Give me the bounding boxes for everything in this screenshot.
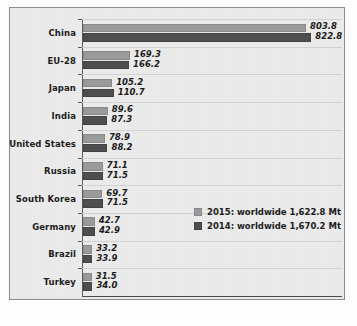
gridline <box>82 268 342 269</box>
axis-tick <box>78 130 82 131</box>
bar-value-label: 88.2 <box>111 142 132 152</box>
axis-tick <box>78 19 82 20</box>
category-row: India89.687.3 <box>82 102 344 130</box>
value-axis-baseline <box>82 296 342 297</box>
category-row: United States78.988.2 <box>82 130 344 158</box>
bar-value-label: 69.7 <box>106 188 127 198</box>
bar-2014 <box>83 33 311 42</box>
axis-tick <box>78 158 82 159</box>
category-row: Japan105.2110.7 <box>82 74 344 102</box>
legend-item-label: 2015: worldwide 1,622.8 Mt <box>207 207 341 217</box>
bar-value-label: 42.7 <box>99 215 120 225</box>
bar-2015 <box>83 273 92 282</box>
bar-value-label: 87.3 <box>111 114 132 124</box>
category-row: Turkey31.534.0 <box>82 268 344 296</box>
gridline <box>82 102 342 103</box>
bar-2015 <box>83 24 306 33</box>
chart-legend: 2015: worldwide 1,622.8 Mt 2014: worldwi… <box>194 206 344 234</box>
bar-2014 <box>83 199 103 208</box>
chart-panel: China803.8822.8EU-28169.3166.2Japan105.2… <box>9 7 345 300</box>
legend-item-label: 2014: worldwide 1,670.2 Mt <box>207 221 341 231</box>
bar-2015 <box>83 51 130 60</box>
bar-2014 <box>83 116 107 125</box>
bar-2014 <box>83 227 95 236</box>
axis-tick <box>78 102 82 103</box>
bar-2015 <box>83 190 102 199</box>
bar-2015 <box>83 217 95 226</box>
bar-value-label: 71.1 <box>107 160 128 170</box>
axis-tick <box>78 213 82 214</box>
bar-value-label: 166.2 <box>133 59 160 69</box>
bar-2014 <box>83 255 92 264</box>
bar-2015 <box>83 107 108 116</box>
bar-2015 <box>83 79 112 88</box>
bar-2015 <box>83 245 92 254</box>
category-label: China <box>49 28 77 38</box>
gridline <box>82 19 342 20</box>
gridline <box>82 158 342 159</box>
category-label: Germany <box>32 222 76 232</box>
category-label: India <box>52 111 76 121</box>
bar-2015 <box>83 162 103 171</box>
bar-2014 <box>83 89 114 98</box>
category-label: Japan <box>49 83 76 93</box>
axis-tick <box>78 268 82 269</box>
bar-value-label: 71.5 <box>107 197 128 207</box>
category-label: EU-28 <box>47 56 76 66</box>
bar-value-label: 110.7 <box>118 87 145 97</box>
bar-2014 <box>83 61 129 70</box>
category-label: Russia <box>44 166 76 176</box>
gridline <box>82 74 342 75</box>
category-label: South Korea <box>16 194 76 204</box>
gridline <box>82 130 342 131</box>
bar-2014 <box>83 144 107 153</box>
category-row: EU-28169.3166.2 <box>82 47 344 75</box>
gridline <box>82 241 342 242</box>
category-row: Russia71.171.5 <box>82 158 344 186</box>
bar-value-label: 169.3 <box>134 49 161 59</box>
bar-2014 <box>83 172 103 181</box>
axis-tick <box>78 241 82 242</box>
bar-2015 <box>83 134 105 143</box>
bar-value-label: 822.8 <box>315 31 342 41</box>
category-label: Turkey <box>44 277 76 287</box>
category-label: Brazil <box>48 249 76 259</box>
bar-value-label: 803.8 <box>310 21 337 31</box>
plot-area: China803.8822.8EU-28169.3166.2Japan105.2… <box>82 19 344 297</box>
light-gray-swatch <box>194 208 202 216</box>
gridline <box>82 185 342 186</box>
category-row: China803.8822.8 <box>82 19 344 47</box>
bar-value-label: 42.9 <box>99 225 120 235</box>
bar-value-label: 78.9 <box>109 132 130 142</box>
bar-chart-figure: China803.8822.8EU-28169.3166.2Japan105.2… <box>0 0 357 326</box>
legend-item: 2014: worldwide 1,670.2 Mt <box>194 220 344 232</box>
bar-2014 <box>83 282 92 291</box>
legend-item: 2015: worldwide 1,622.8 Mt <box>194 206 344 218</box>
category-label: United States <box>9 139 76 149</box>
bar-value-label: 33.9 <box>96 253 117 263</box>
category-row: Brazil33.233.9 <box>82 241 344 269</box>
axis-tick <box>78 185 82 186</box>
bar-value-label: 33.2 <box>96 243 117 253</box>
bar-value-label: 34.0 <box>96 280 117 290</box>
axis-tick <box>78 74 82 75</box>
bar-value-label: 105.2 <box>116 77 143 87</box>
dark-gray-swatch <box>194 222 202 230</box>
axis-tick <box>78 47 82 48</box>
bar-value-label: 71.5 <box>107 170 128 180</box>
bar-value-label: 89.6 <box>112 104 133 114</box>
bar-value-label: 31.5 <box>96 271 117 281</box>
gridline <box>82 47 342 48</box>
